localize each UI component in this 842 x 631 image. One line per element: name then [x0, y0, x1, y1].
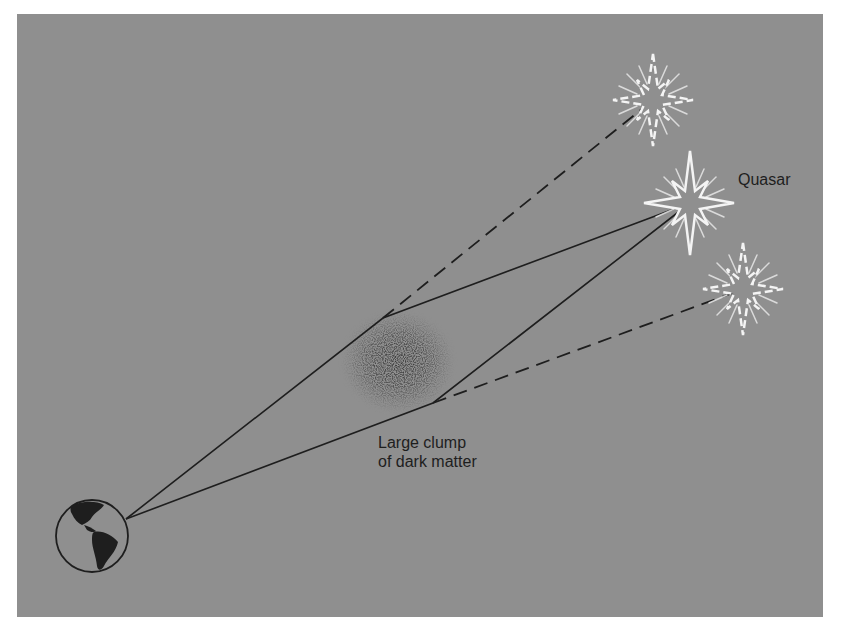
upper-apparent-ray	[383, 104, 648, 318]
earth-icon	[56, 500, 128, 572]
quasar-image-upper-star-icon	[613, 54, 693, 146]
lower-apparent-ray	[433, 291, 738, 403]
quasar-image-lower-star-icon	[703, 243, 783, 335]
dark-matter-label-line1: Large clump	[378, 433, 477, 452]
quasar-label: Quasar	[738, 170, 790, 189]
dark-matter-label: Large clump of dark matter	[378, 433, 477, 471]
lensing-diagram	[0, 0, 842, 631]
dark-matter-label-line2: of dark matter	[378, 452, 477, 471]
quasar-star-icon	[644, 151, 734, 255]
